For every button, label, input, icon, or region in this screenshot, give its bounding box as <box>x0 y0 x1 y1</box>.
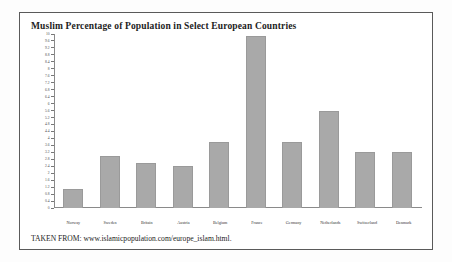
bar-series <box>55 34 420 208</box>
y-axis-tick-label: 7.6 <box>45 74 50 78</box>
bar <box>282 142 302 208</box>
y-axis-tick-label: 2.4 <box>45 164 50 168</box>
x-axis-category-label: Netherlands <box>320 220 340 225</box>
y-axis-tick: 9.6 <box>45 39 54 43</box>
bar-slot <box>165 34 202 208</box>
x-axis-category-label: Austria <box>177 220 189 225</box>
y-axis-tick: 0.8 <box>45 192 54 196</box>
bar <box>319 111 339 208</box>
y-axis-tick: 7.6 <box>45 74 54 78</box>
bar <box>63 189 83 208</box>
y-axis-tick: 8.8 <box>45 53 54 57</box>
x-axis-category-label: Belgium <box>213 220 227 225</box>
chart-figure-inner: Muslim Percentage of Population in Selec… <box>20 13 432 249</box>
y-axis-tick-label: 10 <box>46 32 50 36</box>
y-axis-tick: 9.2 <box>45 46 54 50</box>
y-axis-tick: 4.8 <box>45 122 54 126</box>
y-axis-tick-label: 2 <box>48 171 50 175</box>
bar <box>209 142 229 208</box>
y-axis: 109.69.28.88.487.67.26.86.465.65.24.84.4… <box>30 34 54 208</box>
y-axis-tick-label: 8.8 <box>45 53 50 57</box>
bar-slot <box>128 34 165 208</box>
y-axis-tick-label: 3.2 <box>45 150 50 154</box>
chart-figure-frame: Muslim Percentage of Population in Selec… <box>19 12 433 250</box>
y-axis-tick-label: 9.6 <box>45 39 50 43</box>
bar-slot <box>384 34 421 208</box>
y-axis-tick-label: 4.8 <box>45 122 50 126</box>
x-axis-category-label: Norway <box>67 220 81 225</box>
y-axis-tick-label: 9.2 <box>45 46 50 50</box>
bar-slot <box>201 34 238 208</box>
plot-region: 109.69.28.88.487.67.26.86.465.65.24.84.4… <box>30 34 424 234</box>
bar-slot <box>311 34 348 208</box>
bar-slot <box>55 34 92 208</box>
chart-title: Muslim Percentage of Population in Selec… <box>31 20 424 32</box>
y-axis-tick: 7.2 <box>45 81 54 85</box>
x-axis-label-slot: Netherlands <box>312 210 349 228</box>
x-axis-category-label: Switzerland <box>357 220 377 225</box>
y-axis-tick-label: 5.6 <box>45 109 50 113</box>
bar-slot <box>92 34 129 208</box>
y-axis-tick: 3.2 <box>45 150 54 154</box>
y-axis-tick: 2.8 <box>45 157 54 161</box>
page-canvas: Muslim Percentage of Population in Selec… <box>0 0 452 262</box>
y-axis-tick-label: 3.6 <box>45 143 50 147</box>
y-axis-tick-label: 6 <box>48 102 50 106</box>
axis-area: 109.69.28.88.487.67.26.86.465.65.24.84.4… <box>30 34 422 208</box>
y-axis-tick: 1.6 <box>45 178 54 182</box>
bar <box>136 163 156 208</box>
y-axis-tick-label: 8.4 <box>45 60 50 64</box>
y-axis-tick: 1.2 <box>45 185 54 189</box>
y-axis-tick-label: 4.4 <box>45 129 50 133</box>
y-axis-tick: 6.8 <box>45 88 54 92</box>
y-axis-tick: 0.4 <box>45 199 54 203</box>
y-axis-tick-label: 0.4 <box>45 199 50 203</box>
y-axis-tick: 2.4 <box>45 164 54 168</box>
y-axis-tick-label: 7.2 <box>45 81 50 85</box>
y-axis-tick-label: 6.8 <box>45 88 50 92</box>
x-axis-category-label: Sweden <box>103 220 116 225</box>
y-axis-tick-label: 6.4 <box>45 95 50 99</box>
y-axis-tick-label: 1.6 <box>45 178 50 182</box>
bar <box>392 152 412 208</box>
bar-slot <box>347 34 384 208</box>
y-axis-tick-label: 8 <box>48 67 50 71</box>
bar <box>100 156 120 208</box>
y-axis-tick: 8.4 <box>45 60 54 64</box>
y-axis-tick: 10 <box>46 32 54 36</box>
bar-slot <box>238 34 275 208</box>
bar <box>173 166 193 208</box>
x-axis-category-label: Germany <box>286 220 302 225</box>
y-axis-tick-label: 1.2 <box>45 185 50 189</box>
y-axis-tick-label: 0.8 <box>45 192 50 196</box>
source-attribution: TAKEN FROM: www.islamicpopulation.com/eu… <box>31 234 424 244</box>
x-axis-label-slot: Britain <box>128 210 165 228</box>
x-axis-label-slot: Austria <box>165 210 202 228</box>
x-axis-label-slot: Germany <box>275 210 312 228</box>
x-axis-category-label: France <box>251 220 262 225</box>
y-axis-tick-label: 0 <box>48 206 50 210</box>
x-axis-label-slot: Norway <box>55 210 92 228</box>
y-axis-tick-label: 5.2 <box>45 116 50 120</box>
x-axis-label-slot: Denmark <box>385 210 422 228</box>
y-axis-tick: 3.6 <box>45 143 54 147</box>
bar-slot <box>274 34 311 208</box>
y-axis-tick: 5.2 <box>45 116 54 120</box>
y-axis-tick: 4.4 <box>45 129 54 133</box>
y-axis-tick: 6.4 <box>45 95 54 99</box>
x-axis-label-slot: Sweden <box>92 210 129 228</box>
x-axis-category-label: Britain <box>141 220 153 225</box>
y-axis-tick-label: 4 <box>48 136 50 140</box>
x-axis-label-slot: Switzerland <box>349 210 386 228</box>
y-axis-tick: 5.6 <box>45 109 54 113</box>
x-axis-category-label: Denmark <box>396 220 412 225</box>
x-axis-label-slot: Belgium <box>202 210 239 228</box>
x-axis-category-labels: NorwaySwedenBritainAustriaBelgiumFranceG… <box>55 210 422 224</box>
bar <box>246 36 266 208</box>
bar <box>355 152 375 208</box>
y-axis-tick-label: 2.8 <box>45 157 50 161</box>
x-axis-label-slot: France <box>239 210 276 228</box>
